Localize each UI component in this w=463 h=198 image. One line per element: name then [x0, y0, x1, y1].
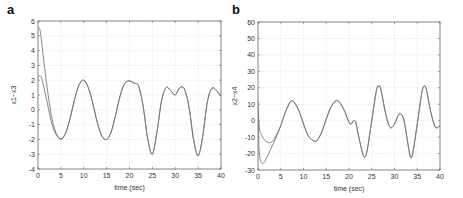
y-tick-label: 10 [247, 101, 255, 108]
y-tick-label: 3 [31, 62, 35, 69]
y-tick-label: 1 [31, 92, 35, 99]
y-axis-label: x2~x4 [231, 86, 238, 105]
x-tick-label: 5 [59, 172, 63, 179]
x-tick-label: 0 [256, 173, 260, 180]
x-tick-label: 25 [368, 173, 376, 180]
y-tick-label: 60 [247, 19, 255, 26]
x-tick-label: 40 [436, 173, 444, 180]
x-tick-label: 30 [171, 172, 179, 179]
x-tick-label: 10 [300, 173, 308, 180]
y-tick-label: 0 [31, 106, 35, 113]
y-axis-label: x1~x3 [10, 85, 17, 104]
y-tick-label: 4 [31, 47, 35, 54]
x-tick-label: 15 [103, 172, 111, 179]
x-tick-label: 25 [148, 172, 156, 179]
y-tick-label: -20 [245, 150, 255, 157]
chart-panel-b: 0510152025303540-30-20-100102030405060ti… [231, 19, 444, 194]
x-tick-label: 20 [126, 172, 134, 179]
y-tick-label: -30 [245, 167, 255, 174]
x-axis-label: time (sec) [114, 184, 145, 192]
y-tick-label: 0 [251, 117, 255, 124]
y-tick-label: 2 [31, 77, 35, 84]
x-axis-label: time (sec) [334, 185, 365, 193]
x-tick-label: 35 [413, 173, 421, 180]
y-tick-label: -4 [29, 166, 35, 173]
y-tick-label: 30 [247, 68, 255, 75]
x-tick-label: 0 [36, 172, 40, 179]
y-tick-label: 40 [247, 51, 255, 58]
x-tick-label: 35 [194, 172, 202, 179]
x-tick-label: 30 [391, 173, 399, 180]
y-tick-label: -10 [245, 134, 255, 141]
x-tick-label: 20 [345, 173, 353, 180]
y-tick-label: -1 [29, 121, 35, 128]
y-tick-label: 6 [31, 18, 35, 25]
y-tick-label: -3 [29, 151, 35, 158]
charts-canvas: 0510152025303540-4-3-2-10123456time (sec… [0, 0, 463, 198]
y-tick-label: 50 [247, 35, 255, 42]
y-tick-label: -2 [29, 136, 35, 143]
chart-panel-a: 0510152025303540-4-3-2-10123456time (sec… [10, 18, 225, 193]
x-tick-label: 40 [217, 172, 225, 179]
x-tick-label: 10 [80, 172, 88, 179]
y-tick-label: 20 [247, 84, 255, 91]
x-tick-label: 5 [279, 173, 283, 180]
y-tick-label: 5 [31, 32, 35, 39]
x-tick-label: 15 [322, 173, 330, 180]
